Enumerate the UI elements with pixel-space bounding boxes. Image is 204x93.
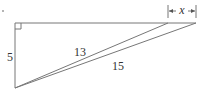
outer-hypotenuse-line <box>15 23 196 88</box>
label-5: 5 <box>7 50 13 64</box>
right-angle-mark <box>15 23 21 29</box>
arrow-right-icon <box>191 9 195 13</box>
stray-dot <box>2 10 4 12</box>
label-15: 15 <box>112 59 124 73</box>
inner-hypotenuse-line <box>15 23 168 88</box>
label-x: x <box>178 3 185 17</box>
label-13: 13 <box>74 45 86 59</box>
triangle-diagram: x 5 13 15 <box>0 0 204 93</box>
arrow-left-icon <box>169 9 173 13</box>
